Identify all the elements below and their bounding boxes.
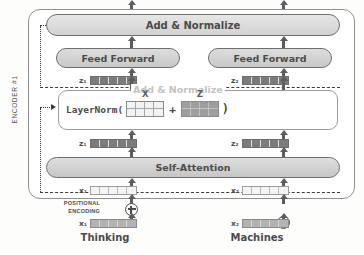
ff-to-addnorm-arrow-left [127, 36, 136, 48]
self-attention-block[interactable]: Self-Attention [46, 157, 340, 178]
matrix-z-wrapper: Z [181, 101, 219, 117]
vector-label-z1-top: z₁ [79, 76, 87, 85]
input-word-right: Machines [212, 232, 302, 243]
positional-encoding-line2: ENCODING [44, 208, 100, 216]
vector-row-x2-embedding: x₂ [231, 219, 289, 228]
encoder-label: ENCODER #1 [11, 55, 18, 145]
matrix-x-wrapper: X [126, 101, 164, 117]
arrow-shaft [282, 41, 284, 48]
vector-label-x1-encoder: x₁ [79, 186, 87, 195]
vector-label-z2-top: z₂ [231, 76, 239, 85]
residual-riser-upper [40, 26, 41, 88]
vector-label-x2-embedding: x₂ [231, 219, 239, 228]
arrow-shaft [130, 41, 132, 48]
vector-label-x2-encoder: x₂ [231, 186, 239, 195]
layernorm-fn-name: LayerNorm( [66, 104, 123, 115]
feed-forward-left-label: Feed Forward [81, 53, 154, 64]
posenc-to-x2-arrow [279, 194, 288, 204]
feed-forward-right-label: Feed Forward [233, 53, 306, 64]
residual-riser-lower [40, 108, 41, 192]
matrix-z [181, 101, 219, 117]
self-attention-label: Self-Attention [155, 162, 230, 173]
positional-encoding-label: POSITIONAL ENCODING [44, 200, 100, 215]
vector-bar-x2-embedding [242, 219, 289, 228]
layernorm-plus-operator: + [167, 103, 178, 116]
matrix-x [126, 101, 164, 117]
layernorm-close-paren: ) [222, 103, 229, 115]
vector-bar-x1-embedding [90, 219, 137, 228]
vector-label-z2-bottom: z₂ [231, 139, 239, 148]
add-normalize-top-label: Add & Normalize [146, 20, 241, 31]
layernorm-formula: LayerNorm( X + Z ) [66, 101, 229, 117]
add-normalize-top-block[interactable]: Add & Normalize [46, 14, 340, 36]
transformer-encoder-diagram: ENCODER #1 Add & Normalize Feed Forward … [0, 0, 364, 255]
feed-forward-left-block[interactable]: Feed Forward [56, 48, 180, 68]
matrix-x-label: X [126, 89, 164, 99]
layernorm-out-arrow-right [279, 76, 288, 90]
matrix-z-label: Z [181, 89, 219, 99]
vector-label-z1-bottom: z₁ [79, 139, 87, 148]
vector-label-x1-embedding: x₁ [79, 219, 87, 228]
feed-forward-right-block[interactable]: Feed Forward [208, 48, 332, 68]
vector-row-x1-embedding: x₁ [79, 219, 137, 228]
positional-encoding-line1: POSITIONAL [44, 200, 100, 208]
input-word-left: Thinking [60, 232, 150, 243]
residual-arrowhead-lower [51, 104, 56, 110]
arrow-shaft [282, 81, 284, 90]
ff-to-addnorm-arrow-right [279, 36, 288, 48]
arrow-shaft [282, 199, 284, 204]
